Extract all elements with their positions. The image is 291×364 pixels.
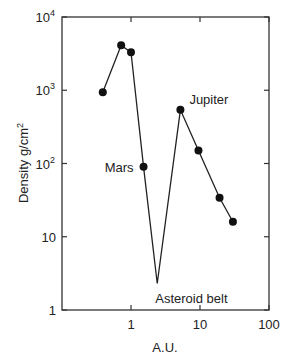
y-axis-ticks: 110102103104	[36, 8, 269, 318]
x-axis-label: A.U.	[152, 340, 177, 355]
annotation-label: Jupiter	[189, 92, 229, 107]
data-point	[216, 194, 224, 202]
y-tick-label: 10	[36, 157, 50, 172]
annotations: MarsJupiterAsteroid belt	[105, 92, 229, 306]
data-point	[229, 218, 237, 226]
data-point	[127, 48, 135, 56]
x-tick-label: 1	[127, 317, 134, 332]
x-tick-label: 10	[193, 317, 207, 332]
plot-frame	[62, 17, 269, 310]
y-tick-label: 10	[42, 230, 56, 245]
y-tick-label: 10	[36, 83, 50, 98]
data-point	[140, 163, 148, 171]
y-tick-label: 1	[49, 303, 56, 318]
annotation-label: Mars	[105, 160, 134, 175]
y-tick-exponent: 2	[50, 155, 55, 165]
data-point	[194, 147, 202, 155]
x-tick-label: 100	[258, 317, 280, 332]
data-point	[99, 88, 107, 96]
data-point	[117, 41, 125, 49]
annotation-label: Asteroid belt	[155, 291, 228, 306]
y-tick-exponent: 3	[50, 81, 55, 91]
y-tick-label: 10	[36, 10, 50, 25]
density-chart: 110102103104 110100 MarsJupiterAsteroid …	[0, 0, 291, 364]
data-point	[176, 106, 184, 114]
y-axis-label: Density g/cm2	[15, 123, 31, 203]
y-tick-exponent: 4	[50, 8, 55, 18]
x-axis-ticks: 110100	[127, 17, 279, 332]
